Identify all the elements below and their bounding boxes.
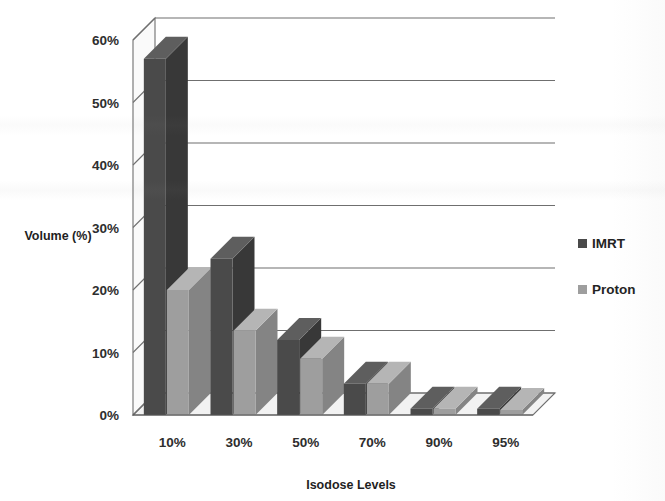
x-axis-category-label: 95% [492, 435, 519, 450]
y-axis-title: Volume (%) [24, 229, 91, 243]
x-axis-category-label: 70% [359, 435, 386, 450]
legend-label-proton: Proton [592, 282, 636, 297]
y-axis-tick-label: 50% [92, 96, 119, 111]
bar-chart: 0%10%20%30%40%50%60%Volume (%)Isodose Le… [0, 0, 665, 501]
x-axis-title: Isodose Levels [306, 478, 396, 492]
y-axis-tick-label: 40% [92, 158, 119, 173]
legend-label-imrt: IMRT [592, 236, 626, 251]
y-axis-tick-label: 10% [92, 346, 119, 361]
bar-front-face [234, 331, 256, 415]
bar-front-face [367, 384, 389, 415]
bar-front-face [411, 409, 433, 415]
legend-swatch-imrt [578, 239, 587, 248]
x-axis-category-label: 50% [292, 435, 319, 450]
y-axis-tick-label: 30% [92, 221, 119, 236]
bar-front-face [167, 290, 189, 415]
bar-front-face [344, 384, 366, 415]
bar-front-face [477, 409, 499, 415]
x-axis-category-label: 10% [159, 435, 186, 450]
bar-front-face [300, 359, 322, 415]
y-axis-tick-label: 0% [99, 408, 119, 423]
x-axis-category-label: 30% [225, 435, 252, 450]
bar-front-face [144, 59, 166, 415]
chart-canvas: 0%10%20%30%40%50%60%Volume (%)Isodose Le… [0, 0, 665, 501]
legend-swatch-proton [578, 285, 587, 294]
bar-front-face [434, 409, 456, 415]
y-axis-tick-label: 20% [92, 283, 119, 298]
bar-side-face [189, 268, 211, 415]
bar-front-face [500, 410, 522, 415]
y-axis-tick-label: 60% [92, 33, 119, 48]
bar-front-face [211, 259, 233, 415]
x-axis-category-label: 90% [425, 435, 452, 450]
bar-front-face [277, 340, 299, 415]
